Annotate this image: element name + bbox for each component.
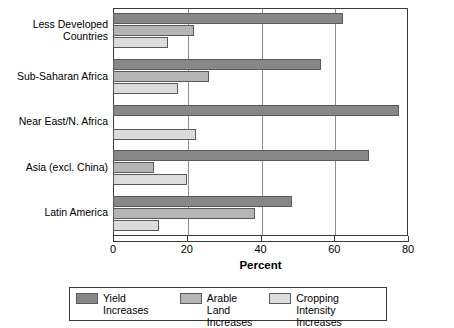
legend-item: Yield Increases [76,292,172,316]
category-axis-labels: Less DevelopedCountriesSub-Saharan Afric… [0,8,108,236]
x-axis-line [113,241,409,242]
bar [113,129,196,140]
bars-layer [113,8,408,236]
legend-label: Arable Land Increases [207,292,261,328]
x-tick-80 [408,236,409,241]
bar [113,174,187,185]
bar [113,83,178,94]
category-label: Less DevelopedCountries [0,19,108,42]
x-tick-label-60: 60 [314,243,354,256]
bar [113,25,194,36]
bar [113,220,159,231]
x-axis-title: Percent [113,259,408,271]
x-tick-label-80: 80 [388,243,428,256]
bar [113,13,343,24]
x-tick-60 [334,236,335,241]
x-tick-20 [187,236,188,241]
legend: Yield IncreasesArable Land IncreasesCrop… [69,287,387,321]
x-tick-label-20: 20 [167,243,207,256]
category-label: Sub-Saharan Africa [0,71,108,83]
dark-gray-swatch [76,293,98,304]
legend-label: Yield Increases [103,292,172,316]
bar [113,59,321,70]
x-tick-label-0: 0 [93,243,133,256]
bar [113,105,399,116]
x-tick-label-40: 40 [241,243,281,256]
legend-label: Cropping Intensity Increases [296,292,378,328]
legend-item: Cropping Intensity Increases [269,292,378,328]
legend-item: Arable Land Increases [180,292,261,328]
bar [113,196,292,207]
category-label: Latin America [0,207,108,219]
medium-gray-swatch [180,293,202,304]
bar [113,71,209,82]
bar [113,150,369,161]
bar [113,37,168,48]
bar [113,208,255,219]
x-tick-40 [261,236,262,241]
x-tick-0 [113,236,114,241]
category-label: Near East/N. Africa [0,116,108,128]
light-gray-swatch [269,293,291,304]
category-label: Asia (excl. China) [0,162,108,174]
bar [113,162,154,173]
legend-items: Yield IncreasesArable Land IncreasesCrop… [70,288,386,320]
grouped-bar-chart: Less DevelopedCountriesSub-Saharan Afric… [0,0,454,328]
